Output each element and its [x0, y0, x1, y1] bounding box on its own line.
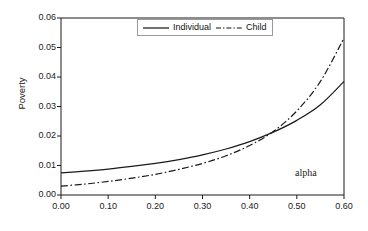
- x-axis-tick-labels: 0.000.100.200.300.400.500.60: [0, 202, 368, 216]
- chart-legend: IndividualChild: [137, 19, 273, 36]
- series-line-child: [61, 38, 344, 186]
- y-axis-tick-labels: 0.000.010.020.030.040.050.06: [22, 0, 56, 231]
- chart-screenshot: Poverty 0.000.010.020.030.040.050.06 0.0…: [0, 0, 368, 231]
- x-tick-label: 0.50: [288, 202, 306, 211]
- legend-entry-child: Child: [216, 23, 267, 32]
- alpha-annotation: alpha: [295, 168, 317, 178]
- x-tick-label: 0.30: [194, 202, 212, 211]
- y-tick-label: 0.01: [38, 161, 56, 170]
- legend-swatch-dash-dot: [216, 24, 242, 32]
- legend-entry-individual: Individual: [143, 23, 211, 32]
- x-tick-label: 0.00: [52, 202, 70, 211]
- series-line-individual: [61, 81, 344, 172]
- y-tick-label: 0.04: [38, 72, 56, 81]
- y-tick-label: 0.05: [38, 43, 56, 52]
- y-tick-label: 0.03: [38, 102, 56, 111]
- y-tick-label: 0.02: [38, 131, 56, 140]
- y-tick-label: 0.00: [38, 190, 56, 199]
- x-tick-label: 0.10: [99, 202, 117, 211]
- x-tick-label: 0.20: [147, 202, 165, 211]
- legend-swatch-solid: [143, 24, 169, 32]
- x-tick-label: 0.40: [241, 202, 259, 211]
- legend-label: Individual: [173, 23, 211, 32]
- legend-label: Child: [246, 23, 267, 32]
- x-tick-label: 0.60: [335, 202, 353, 211]
- y-tick-label: 0.06: [38, 13, 56, 22]
